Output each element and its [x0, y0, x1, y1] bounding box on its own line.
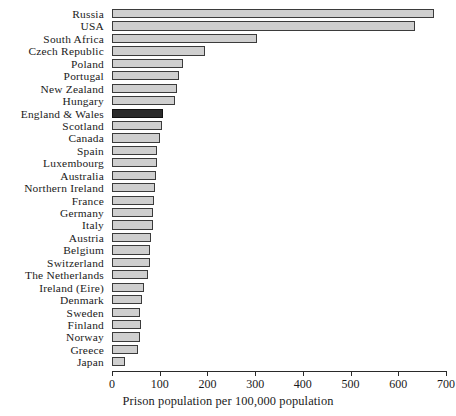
bar	[112, 171, 156, 180]
bar-row	[112, 331, 446, 343]
bar-highlighted	[112, 109, 163, 118]
bar	[112, 220, 153, 229]
category-label: Czech Republic	[0, 45, 108, 57]
category-label: Luxembourg	[0, 157, 108, 169]
category-label: The Netherlands	[0, 269, 108, 281]
bar	[112, 295, 142, 304]
bar-row	[112, 344, 446, 356]
bar-row	[112, 282, 446, 294]
category-label: Scotland	[0, 120, 108, 132]
bar	[112, 270, 148, 279]
bar-row	[112, 307, 446, 319]
bar	[112, 332, 140, 341]
x-tick	[398, 371, 399, 376]
bar	[112, 96, 175, 105]
x-tick-label: 700	[437, 377, 455, 391]
bar	[112, 283, 144, 292]
bar	[112, 183, 155, 192]
bar-row	[112, 145, 446, 157]
category-label: Spain	[0, 145, 108, 157]
prison-population-bar-chart: RussiaUSASouth AfricaCzech RepublicPolan…	[0, 0, 456, 416]
category-label: Sweden	[0, 307, 108, 319]
x-axis-title: Prison population per 100,000 population	[0, 394, 456, 409]
category-label: Hungary	[0, 95, 108, 107]
bar-row	[112, 182, 446, 194]
bar	[112, 9, 434, 18]
bar	[112, 84, 177, 93]
bar-row	[112, 8, 446, 20]
bar	[112, 46, 205, 55]
bar-row	[112, 269, 446, 281]
bar	[112, 208, 153, 217]
x-tick-label: 300	[246, 377, 264, 391]
x-tick	[207, 371, 208, 376]
bar-row	[112, 232, 446, 244]
bar	[112, 245, 150, 254]
bar-row	[112, 170, 446, 182]
category-label: USA	[0, 20, 108, 32]
category-label: Norway	[0, 331, 108, 343]
category-label: South Africa	[0, 33, 108, 45]
category-label: England & Wales	[0, 108, 108, 120]
bar	[112, 345, 138, 354]
bar-row	[112, 83, 446, 95]
x-tick	[446, 371, 447, 376]
category-label: New Zealand	[0, 83, 108, 95]
bar-row	[112, 95, 446, 107]
bar-row	[112, 58, 446, 70]
category-label: Poland	[0, 58, 108, 70]
bar	[112, 158, 157, 167]
x-tick	[160, 371, 161, 376]
bar-row	[112, 257, 446, 269]
category-label: Italy	[0, 219, 108, 231]
x-tick-label: 0	[109, 377, 115, 391]
bar-row	[112, 70, 446, 82]
x-tick	[255, 371, 256, 376]
x-tick	[112, 371, 113, 376]
bar-row	[112, 157, 446, 169]
bar	[112, 258, 150, 267]
bar-row	[112, 244, 446, 256]
category-label: Belgium	[0, 244, 108, 256]
category-label: Portugal	[0, 70, 108, 82]
category-label: Austria	[0, 232, 108, 244]
bar-row	[112, 108, 446, 120]
bar-row	[112, 356, 446, 368]
bar-row	[112, 132, 446, 144]
category-label: Northern Ireland	[0, 182, 108, 194]
bar-row	[112, 294, 446, 306]
category-axis-labels: RussiaUSASouth AfricaCzech RepublicPolan…	[0, 8, 108, 369]
plot-area	[112, 8, 446, 369]
bar	[112, 233, 151, 242]
category-label: France	[0, 195, 108, 207]
category-label: Russia	[0, 8, 108, 20]
bar	[112, 121, 162, 130]
bar	[112, 146, 157, 155]
category-label: Ireland (Eire)	[0, 282, 108, 294]
x-tick	[351, 371, 352, 376]
x-tick-label: 400	[294, 377, 312, 391]
bar	[112, 21, 415, 30]
x-tick-label: 500	[342, 377, 360, 391]
x-tick	[303, 371, 304, 376]
bar	[112, 59, 183, 68]
bar-row	[112, 45, 446, 57]
bar-row	[112, 195, 446, 207]
bar-row	[112, 319, 446, 331]
category-label: Australia	[0, 170, 108, 182]
x-tick-label: 200	[198, 377, 216, 391]
category-label: Canada	[0, 132, 108, 144]
x-tick-label: 100	[151, 377, 169, 391]
category-label: Greece	[0, 344, 108, 356]
bar	[112, 308, 140, 317]
bar-row	[112, 20, 446, 32]
bar-row	[112, 219, 446, 231]
bar	[112, 357, 125, 366]
category-label: Japan	[0, 356, 108, 368]
category-label: Finland	[0, 319, 108, 331]
bar	[112, 196, 154, 205]
category-label: Germany	[0, 207, 108, 219]
bar-row	[112, 120, 446, 132]
bar	[112, 133, 160, 142]
bar	[112, 320, 141, 329]
